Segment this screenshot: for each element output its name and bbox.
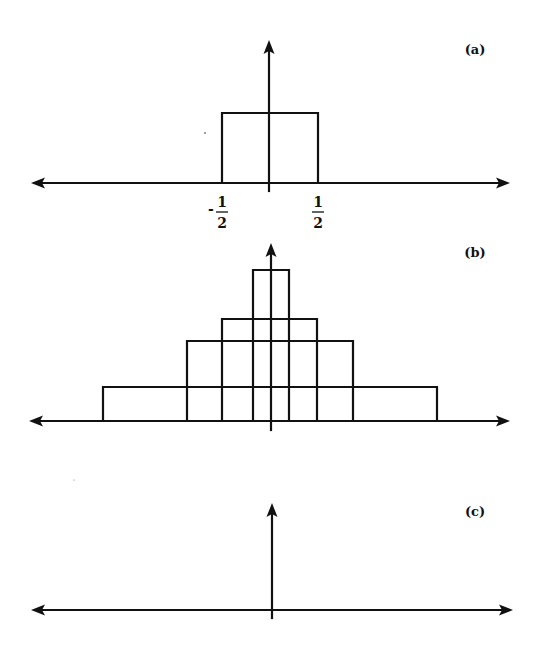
tick-denominator: 2 (217, 215, 227, 231)
panel-a-rect-pulse: (a)12-12 (31, 40, 510, 231)
tick-label-fraction: 12 (312, 194, 324, 231)
tick-sign: - (208, 201, 214, 217)
speck (73, 479, 74, 480)
figure-canvas: (a)12-12 (b) (c) (0, 0, 540, 652)
panel-c-impulse: (c) (31, 503, 513, 618)
pulse-rect-2 (222, 319, 317, 421)
print-specks (73, 132, 206, 481)
panel-label: (c) (465, 504, 485, 519)
panel-b-nested-pulses: (b) (29, 243, 510, 430)
tick-numerator: 1 (313, 194, 323, 210)
panel-label: (a) (465, 42, 486, 57)
speck (204, 132, 206, 134)
tick-numerator: 1 (217, 194, 227, 210)
panel-label: (b) (464, 245, 485, 260)
tick-label-fraction: 12- (208, 194, 228, 231)
tick-denominator: 2 (313, 215, 323, 231)
